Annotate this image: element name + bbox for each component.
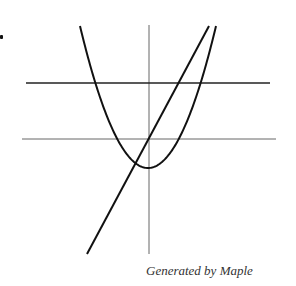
generated-by-caption: Generated by Maple: [146, 263, 253, 279]
parabola-curve: [80, 26, 216, 168]
linear-curve: [87, 26, 209, 254]
plot-area: [0, 0, 296, 286]
